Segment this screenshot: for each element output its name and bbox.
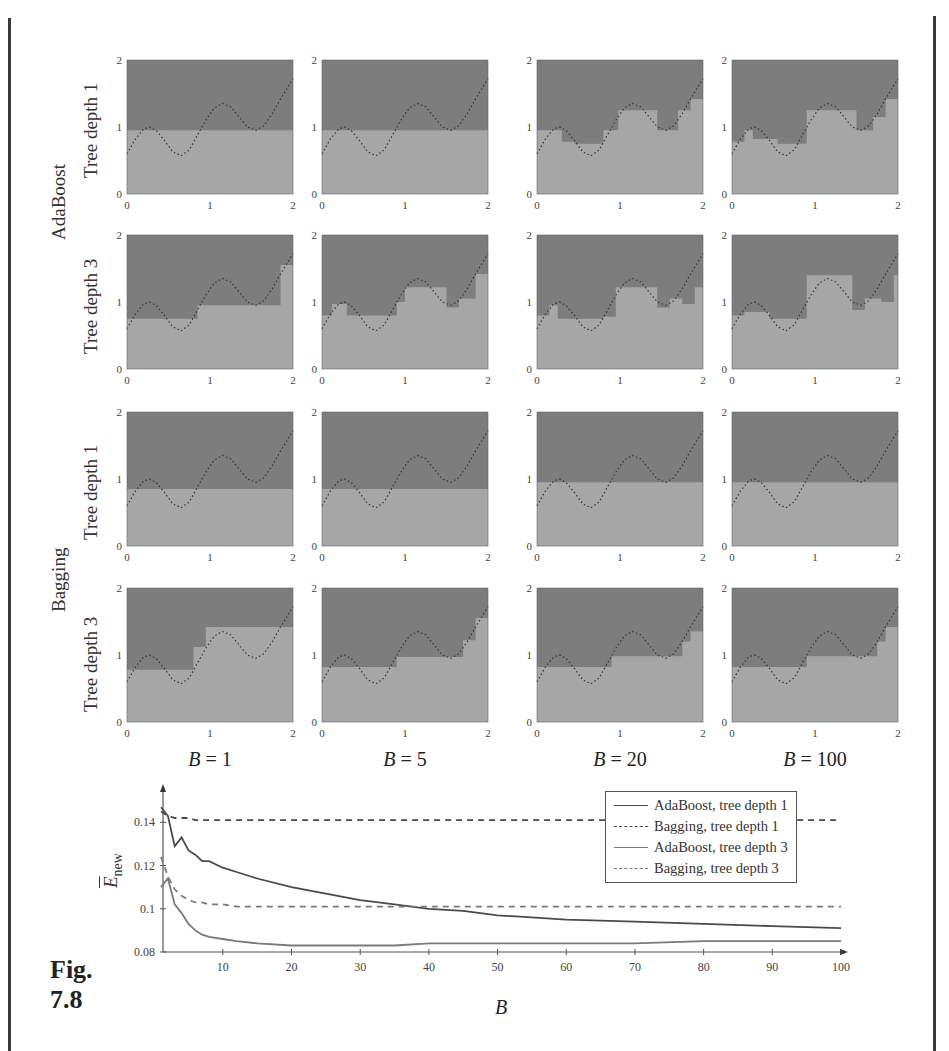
- solid-line-swatch-icon: [614, 847, 648, 848]
- dashed-line-swatch-icon: [614, 826, 648, 827]
- svg-text:0.1: 0.1: [140, 902, 155, 916]
- svg-text:10: 10: [217, 960, 229, 974]
- svg-text:30: 30: [354, 960, 366, 974]
- legend-item-bagging-depth3: Bagging, tree depth 3: [614, 858, 788, 879]
- legend-item-adaboost-depth1: AdaBoost, tree depth 1: [614, 795, 788, 816]
- legend-item-bagging-depth1: Bagging, tree depth 1: [614, 816, 788, 837]
- svg-text:50: 50: [492, 960, 504, 974]
- svg-text:20: 20: [286, 960, 298, 974]
- svg-text:0.14: 0.14: [134, 815, 155, 829]
- y-axis-arrow-icon: [160, 784, 166, 792]
- solid-line-swatch-icon: [614, 805, 648, 806]
- svg-text:0.08: 0.08: [134, 945, 155, 959]
- line-chart-svg: 0.080.10.120.14102030405060708090100: [0, 0, 949, 1051]
- svg-text:100: 100: [832, 960, 850, 974]
- svg-text:40: 40: [423, 960, 435, 974]
- x-axis-label: B: [495, 996, 507, 1019]
- legend-item-adaboost-depth3: AdaBoost, tree depth 3: [614, 837, 788, 858]
- y-axis-label: Enew: [100, 853, 126, 888]
- chart-legend: AdaBoost, tree depth 1 Bagging, tree dep…: [605, 791, 797, 883]
- svg-text:80: 80: [698, 960, 710, 974]
- series-adaboost-depth3: [161, 879, 841, 946]
- svg-text:0.12: 0.12: [134, 859, 155, 873]
- svg-text:60: 60: [560, 960, 572, 974]
- svg-text:70: 70: [629, 960, 641, 974]
- figure-label: Fig. 7.8: [50, 955, 93, 1015]
- svg-text:90: 90: [766, 960, 778, 974]
- dashed-line-swatch-icon: [614, 868, 648, 869]
